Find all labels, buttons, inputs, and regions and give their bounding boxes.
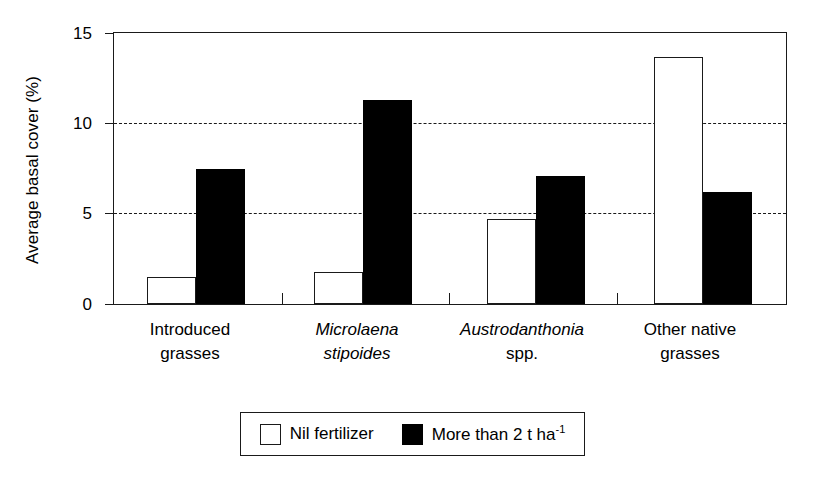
bar-nil-microlaena-stipoides	[314, 272, 363, 305]
y-tick-label-15: 15	[73, 24, 92, 44]
group-label-line1: Other native	[610, 318, 770, 342]
group-label-line2: stipoides	[277, 342, 437, 366]
group-label-line1: Austrodanthonia	[432, 318, 612, 342]
plot-area: 15 10 5 0	[113, 32, 787, 305]
bar-nil-introduced-grasses	[147, 277, 196, 304]
legend-item-more-than-2t: More than 2 t ha-1	[402, 423, 566, 445]
group-label-microlaena-stipoides: Microlaena stipoides	[277, 318, 437, 366]
bar-chart-figure: Average basal cover (%) 15 10 5 0	[0, 0, 821, 484]
y-tick-label-10: 10	[73, 114, 92, 134]
x-separator-2	[449, 293, 450, 304]
group-label-line2: grasses	[110, 342, 270, 366]
bar-nil-other-native-grasses	[654, 57, 703, 305]
y-tick-5: 5	[105, 213, 114, 214]
x-separator-3	[617, 293, 618, 304]
bar-fert-austrodanthonia-spp	[536, 176, 585, 304]
legend-label-nil-fertilizer: Nil fertilizer	[290, 424, 374, 444]
group-label-line2: grasses	[610, 342, 770, 366]
bar-fert-introduced-grasses	[196, 169, 245, 305]
y-tick-label-0: 0	[83, 295, 92, 315]
y-tick-label-5: 5	[83, 204, 92, 224]
bar-fert-other-native-grasses	[703, 192, 752, 304]
x-separator-1	[282, 293, 283, 304]
group-label-line2: spp.	[432, 342, 612, 366]
bar-fert-microlaena-stipoides	[363, 100, 412, 304]
group-label-other-native-grasses: Other native grasses	[610, 318, 770, 366]
legend: Nil fertilizer More than 2 t ha-1	[240, 412, 585, 456]
y-tick-0: 0	[105, 304, 114, 305]
legend-item-nil-fertilizer: Nil fertilizer	[260, 424, 374, 445]
bar-nil-austrodanthonia-spp	[487, 219, 536, 304]
white-square-icon	[260, 424, 281, 445]
group-label-line1: Introduced	[110, 318, 270, 342]
group-label-line1: Microlaena	[277, 318, 437, 342]
group-label-introduced-grasses: Introduced grasses	[110, 318, 270, 366]
legend-label-main: More than 2 t ha	[432, 425, 556, 444]
y-tick-15: 15	[105, 33, 114, 34]
legend-label-more-than-2t: More than 2 t ha-1	[432, 423, 566, 445]
y-axis-title: Average basal cover (%)	[16, 0, 50, 340]
group-label-austrodanthonia-spp: Austrodanthonia spp.	[432, 318, 612, 366]
black-square-icon	[402, 424, 423, 445]
legend-label-superscript: -1	[556, 423, 566, 435]
y-tick-10: 10	[105, 123, 114, 124]
